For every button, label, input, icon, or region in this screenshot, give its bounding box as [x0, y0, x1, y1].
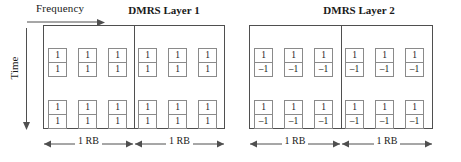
resource-cell: 1 — [345, 48, 364, 63]
resource-cell: 1 — [375, 100, 394, 115]
rb-measure-label: 1 RB — [43, 135, 134, 146]
cell-pair: 1 –1 — [345, 100, 364, 129]
cell-pair: 1 1 — [48, 48, 67, 77]
resource-cell: 1 — [168, 114, 187, 129]
resource-cell: 1 — [405, 48, 424, 63]
cell-pair: 1 1 — [48, 100, 67, 129]
cell-pair: 1 –1 — [284, 48, 303, 77]
resource-cell: 1 — [138, 48, 157, 63]
cell-pair: 1 –1 — [254, 48, 273, 77]
resource-grid-layer-2: 1 –1 1 –1 1 –1 1 –1 1 –1 1 –1 1 –1 1 –1 — [249, 25, 433, 129]
resource-cell: 1 — [48, 100, 67, 115]
rb-label-text: 1 RB — [75, 135, 102, 146]
rb-label-text: 1 RB — [166, 135, 193, 146]
resource-cell: 1 — [138, 100, 157, 115]
resource-cell: 1 — [198, 62, 217, 77]
resource-cell: 1 — [138, 62, 157, 77]
cell-pair: 1 1 — [108, 100, 127, 129]
resource-cell: –1 — [254, 114, 273, 129]
rb-measure-label: 1 RB — [134, 135, 225, 146]
resource-cell: –1 — [345, 62, 364, 77]
resource-cell: 1 — [138, 114, 157, 129]
cell-pair: 1 1 — [198, 100, 217, 129]
resource-cell: –1 — [405, 114, 424, 129]
rb-measure-label: 1 RB — [341, 135, 433, 146]
frequency-axis-label: Frequency — [36, 2, 84, 14]
resource-cell: 1 — [345, 100, 364, 115]
resource-cell: 1 — [198, 114, 217, 129]
resource-cell: 1 — [198, 100, 217, 115]
resource-cell: 1 — [108, 62, 127, 77]
cell-pair: 1 –1 — [375, 100, 394, 129]
resource-cell: 1 — [78, 114, 97, 129]
cell-pair: 1 1 — [78, 48, 97, 77]
resource-cell: 1 — [168, 48, 187, 63]
resource-cell: 1 — [375, 48, 394, 63]
rb-label-text: 1 RB — [374, 135, 401, 146]
cell-pair: 1 –1 — [314, 100, 333, 129]
panel-title-layer-2: DMRS Layer 2 — [283, 4, 435, 16]
resource-cell: –1 — [345, 114, 364, 129]
cell-pair: 1 –1 — [375, 48, 394, 77]
rb-divider-layer-2 — [341, 26, 342, 128]
rb-label-text: 1 RB — [282, 135, 309, 146]
cell-pair: 1 –1 — [314, 48, 333, 77]
rb-measure-label: 1 RB — [249, 135, 341, 146]
resource-cell: –1 — [284, 62, 303, 77]
resource-cell: 1 — [254, 48, 273, 63]
resource-cell: 1 — [108, 114, 127, 129]
resource-cell: –1 — [284, 114, 303, 129]
time-arrow-icon — [22, 28, 31, 130]
resource-cell: –1 — [375, 62, 394, 77]
cell-pair: 1 –1 — [405, 48, 424, 77]
resource-cell: 1 — [168, 62, 187, 77]
cell-pair: 1 1 — [168, 100, 187, 129]
resource-grid-layer-1: 1 1 1 1 1 1 1 1 1 1 1 1 1 1 1 1 — [43, 25, 225, 129]
cell-pair: 1 1 — [198, 48, 217, 77]
resource-cell: 1 — [198, 48, 217, 63]
rb-measure-layer-2-rb-1: 1 RB — [249, 136, 341, 152]
cell-pair: 1 1 — [108, 48, 127, 77]
resource-cell: 1 — [78, 62, 97, 77]
cell-pair: 1 1 — [78, 100, 97, 129]
rb-measure-layer-1-rb-2: 1 RB — [134, 136, 225, 152]
time-axis-label: Time — [8, 48, 20, 88]
resource-cell: 1 — [108, 100, 127, 115]
resource-cell: 1 — [48, 48, 67, 63]
resource-cell: 1 — [254, 100, 273, 115]
resource-cell: –1 — [314, 114, 333, 129]
cell-pair: 1 1 — [138, 100, 157, 129]
resource-cell: 1 — [78, 48, 97, 63]
cell-pair: 1 –1 — [345, 48, 364, 77]
resource-cell: 1 — [314, 100, 333, 115]
resource-cell: 1 — [314, 48, 333, 63]
resource-cell: –1 — [405, 62, 424, 77]
rb-divider-layer-1 — [134, 26, 135, 128]
cell-pair: 1 –1 — [254, 100, 273, 129]
resource-cell: 1 — [405, 100, 424, 115]
panel-title-layer-1: DMRS Layer 1 — [104, 4, 224, 16]
resource-cell: –1 — [375, 114, 394, 129]
resource-cell: 1 — [48, 62, 67, 77]
rb-measure-layer-2-rb-2: 1 RB — [341, 136, 433, 152]
cell-pair: 1 –1 — [405, 100, 424, 129]
resource-cell: 1 — [108, 48, 127, 63]
cell-pair: 1 –1 — [284, 100, 303, 129]
resource-cell: 1 — [284, 48, 303, 63]
resource-cell: 1 — [78, 100, 97, 115]
cell-pair: 1 1 — [138, 48, 157, 77]
resource-cell: 1 — [284, 100, 303, 115]
resource-cell: –1 — [254, 62, 273, 77]
cell-pair: 1 1 — [168, 48, 187, 77]
resource-cell: 1 — [168, 100, 187, 115]
resource-cell: 1 — [48, 114, 67, 129]
dmrs-layer-mapping-figure: Frequency Time DMRS Layer 1 DMRS Layer 2… — [0, 0, 461, 162]
rb-measure-layer-1-rb-1: 1 RB — [43, 136, 134, 152]
resource-cell: –1 — [314, 62, 333, 77]
